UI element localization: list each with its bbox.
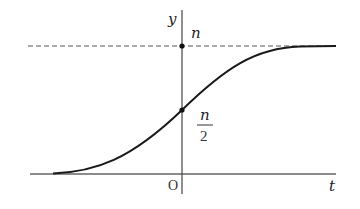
logistic-diagram: y n n 2 O t [0, 0, 360, 209]
midpoint-denominator: 2 [200, 128, 208, 144]
y-axis-label: y [167, 10, 177, 28]
asymptote-point [179, 43, 184, 48]
x-axis-label: t [329, 177, 336, 195]
origin-label: O [168, 178, 178, 193]
midpoint-point [179, 107, 184, 112]
midpoint-numerator: n [200, 106, 210, 124]
asymptote-label: n [191, 24, 201, 42]
logistic-curve [53, 46, 336, 174]
